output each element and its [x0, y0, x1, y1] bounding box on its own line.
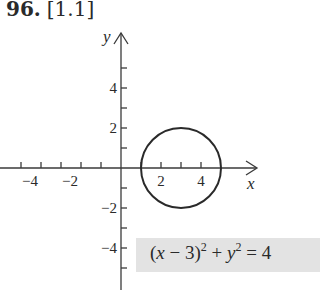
- x-ticks: [21, 162, 201, 168]
- y-tick-label: −2: [101, 200, 117, 216]
- x-tick-label: 4: [197, 173, 205, 189]
- y-tick-label: 4: [110, 80, 118, 96]
- x-tick-label: 2: [157, 173, 165, 189]
- y-axis-label: y: [101, 27, 111, 46]
- x-tick-label: −2: [62, 173, 78, 189]
- x-axis-label: x: [246, 174, 255, 193]
- x-tick-label: −4: [22, 173, 38, 189]
- y-tick-label: 2: [110, 120, 118, 136]
- y-tick-label: −4: [101, 240, 117, 256]
- equation-label: (x − 3)2 + y2 = 4: [150, 242, 271, 264]
